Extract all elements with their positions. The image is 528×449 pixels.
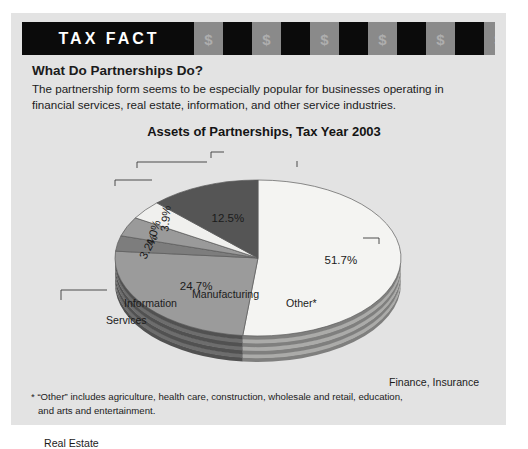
banner-block-1 [223, 22, 252, 55]
tax-fact-banner: TAX FACT $$$$$$ [22, 22, 495, 55]
dollar-icon: $ [252, 31, 281, 46]
dollar-icon: $ [368, 31, 397, 46]
banner-block-6: $ [368, 22, 397, 55]
intro-line-2: financial services, real estate, informa… [32, 97, 484, 113]
chart-footnote: * “Other” includes agriculture, health c… [31, 390, 476, 418]
dollar-icon: $ [426, 31, 455, 46]
intro-line-1: The partnership form seems to be especia… [32, 82, 444, 95]
footnote-line-1: * “Other” includes agriculture, health c… [31, 391, 403, 402]
banner-block-4: $ [310, 22, 339, 55]
banner-block-9 [455, 22, 484, 55]
banner-block-3 [281, 22, 310, 55]
callout-manufacturing: Manufacturing [192, 288, 259, 300]
banner-block-2: $ [252, 22, 281, 55]
banner-title: TAX FACT [22, 22, 194, 55]
callout-services: Services [106, 314, 147, 326]
footnote-line-2: and arts and entertainment. [31, 404, 476, 418]
callout-finance-insurance: Finance, Insurance [389, 376, 479, 388]
intro-paragraph: The partnership form seems to be especia… [32, 81, 484, 114]
banner-block-10: $ [484, 22, 495, 55]
dollar-icon: $ [194, 31, 223, 46]
section-headline: What Do Partnerships Do? [32, 63, 472, 78]
callout-information: Information [124, 297, 177, 309]
pie-chart: 51.7%24.7%3.2%4.0%3.9%12.5% Services Inf… [11, 140, 506, 380]
banner-block-5 [339, 22, 368, 55]
banner-block-0: $ [194, 22, 223, 55]
callout-real-estate: Real Estate [44, 437, 99, 449]
pie-value-label-0: 51.7% [325, 254, 358, 266]
pie-chart-svg: 51.7%24.7%3.2%4.0%3.9%12.5% [11, 140, 506, 380]
dollar-icon: $ [310, 31, 339, 46]
pie-value-label-5: 12.5% [212, 212, 245, 224]
chart-title: Assets of Partnerships, Tax Year 2003 [0, 124, 528, 139]
banner-block-8: $ [426, 22, 455, 55]
dollar-pattern-strip: $$$$$$ [194, 22, 495, 55]
dollar-icon: $ [484, 31, 495, 46]
banner-block-7 [397, 22, 426, 55]
callout-other: Other* [286, 297, 317, 309]
